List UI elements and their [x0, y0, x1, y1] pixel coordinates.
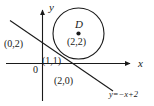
region-label-d: D [75, 19, 83, 30]
center-point-label: (2,2) [67, 37, 86, 47]
x-intercept-label: (2,0) [54, 76, 73, 86]
math-figure: y x 0 (0,2) (1,1) (2,0) D (2,2) y=−x+2 [0, 0, 154, 106]
line-equation-label: y=−x+2 [109, 90, 138, 99]
origin-label: 0 [33, 65, 38, 75]
tangent-point-label: (1,1) [42, 56, 61, 66]
x-axis-label: x [138, 58, 143, 69]
y-axis-label: y [49, 2, 54, 13]
center-point-marker [76, 31, 80, 35]
y-intercept-label: (0,2) [4, 39, 23, 49]
